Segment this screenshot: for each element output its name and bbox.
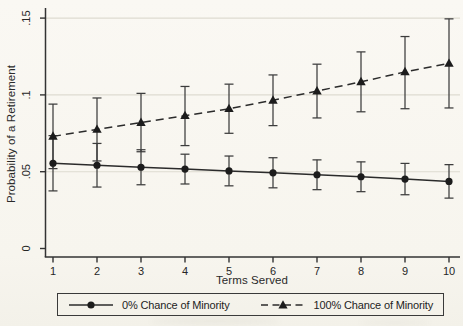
y-tick-label: .05 — [20, 164, 32, 179]
marker-circle — [49, 160, 56, 167]
plot-area: 0.05.1.1512345678910 — [0, 0, 463, 292]
legend-label-series-1: 100% Chance of Minority — [314, 299, 433, 311]
legend-entry-series-0: 0% Chance of Minority — [68, 299, 230, 311]
scan-smudge — [150, 318, 280, 324]
marker-circle — [225, 167, 232, 174]
legend-box: 0% Chance of Minority 100% Chance of Min… — [57, 293, 444, 316]
series-line-0 — [53, 163, 449, 181]
y-axis-title: Probability of a Retirement — [4, 27, 18, 241]
legend-label-series-0: 0% Chance of Minority — [122, 299, 230, 311]
marker-circle — [93, 162, 100, 169]
marker-circle — [357, 173, 364, 180]
y-tick-label: 0 — [20, 245, 32, 251]
series-line-1 — [53, 63, 449, 136]
solid-line-circle-marker-icon — [68, 299, 114, 311]
x-axis-title: Terms Served — [45, 274, 459, 286]
dashed-line-triangle-marker-icon — [260, 299, 306, 311]
marker-triangle — [400, 67, 409, 75]
marker-triangle — [92, 124, 101, 132]
y-tick-label: .1 — [20, 90, 32, 99]
marker-triangle — [224, 104, 233, 112]
legend-entry-series-1: 100% Chance of Minority — [260, 299, 433, 311]
marker-circle — [401, 175, 408, 182]
retirement-probability-figure: 0.05.1.1512345678910 Probability of a Re… — [0, 0, 463, 326]
marker-circle — [181, 165, 188, 172]
scan-smudge — [360, 320, 430, 325]
marker-circle — [313, 171, 320, 178]
y-tick-label: .15 — [20, 10, 32, 25]
marker-circle — [445, 178, 452, 185]
marker-circle — [269, 169, 276, 176]
marker-triangle — [444, 58, 453, 66]
marker-triangle — [312, 86, 321, 94]
marker-circle — [137, 164, 144, 171]
